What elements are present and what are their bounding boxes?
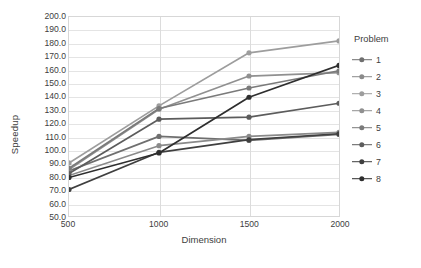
data-point-marker [336, 63, 339, 68]
legend-swatch-icon [352, 140, 372, 150]
series-svg [69, 17, 339, 216]
legend-swatch-icon [352, 106, 372, 116]
data-point-marker [156, 143, 161, 148]
data-point-marker [246, 115, 251, 120]
data-point-marker [156, 117, 161, 122]
legend-marker-icon [359, 159, 364, 164]
data-point-marker [246, 95, 251, 100]
y-axis-title: Speedup [6, 0, 24, 268]
y-tick-label: 140.0 [44, 91, 66, 101]
legend-item-6[interactable]: 6 [352, 136, 418, 153]
legend-marker-icon [359, 125, 364, 130]
line-chart: Speedup 50.060.070.080.090.0100.0110.012… [0, 0, 421, 268]
legend-item-1[interactable]: 1 [352, 51, 418, 68]
data-point-marker [246, 73, 251, 78]
x-tick-label: 1500 [240, 219, 259, 229]
plot-area [68, 16, 340, 217]
legend-title: Problem [354, 34, 418, 44]
x-axis-tick-labels: 500100015002000 [68, 219, 340, 233]
legend-label: 8 [376, 174, 381, 184]
legend-items: 12345678 [352, 51, 418, 187]
legend-marker-icon [359, 57, 364, 62]
legend-swatch-icon [352, 157, 372, 167]
legend: Problem 12345678 [352, 34, 418, 187]
legend-swatch-icon [352, 89, 372, 99]
legend-label: 1 [376, 55, 381, 65]
x-tick-label: 500 [61, 219, 75, 229]
legend-label: 5 [376, 123, 381, 133]
legend-swatch-icon [352, 174, 372, 184]
legend-marker-icon [359, 91, 364, 96]
legend-label: 3 [376, 89, 381, 99]
series-line-5 [69, 71, 339, 169]
legend-marker-icon [359, 142, 364, 147]
y-tick-label: 200.0 [44, 11, 66, 21]
data-point-marker [246, 137, 251, 142]
data-point-marker [246, 85, 251, 90]
legend-swatch-icon [352, 123, 372, 133]
series-line-1 [69, 134, 339, 170]
data-point-marker [336, 38, 339, 43]
legend-item-7[interactable]: 7 [352, 153, 418, 170]
y-tick-label: 70.0 [49, 185, 66, 195]
y-tick-label: 180.0 [44, 38, 66, 48]
x-tick-label: 1000 [149, 219, 168, 229]
y-tick-label: 90.0 [49, 158, 66, 168]
y-tick-label: 160.0 [44, 65, 66, 75]
legend-marker-icon [359, 176, 364, 181]
legend-item-2[interactable]: 2 [352, 68, 418, 85]
data-point-marker [156, 106, 161, 111]
legend-swatch-icon [352, 55, 372, 65]
x-axis-title: Dimension [68, 234, 340, 245]
legend-item-4[interactable]: 4 [352, 102, 418, 119]
data-point-marker [246, 50, 251, 55]
y-tick-label: 110.0 [45, 132, 66, 142]
legend-item-8[interactable]: 8 [352, 170, 418, 187]
x-axis-title-label: Dimension [182, 234, 227, 245]
legend-marker-icon [359, 74, 364, 79]
y-axis-tick-labels: 50.060.070.080.090.0100.0110.0120.0130.0… [26, 16, 66, 217]
legend-swatch-icon [352, 72, 372, 82]
legend-label: 6 [376, 140, 381, 150]
y-tick-label: 100.0 [44, 145, 66, 155]
legend-item-5[interactable]: 5 [352, 119, 418, 136]
data-point-marker [156, 150, 161, 155]
data-point-marker [336, 101, 339, 106]
y-tick-label: 130.0 [44, 105, 66, 115]
y-tick-label: 60.0 [49, 199, 66, 209]
legend-label: 2 [376, 72, 381, 82]
data-point-marker [156, 134, 161, 139]
legend-item-3[interactable]: 3 [352, 85, 418, 102]
y-tick-label: 80.0 [49, 172, 66, 182]
x-tick-label: 2000 [330, 219, 349, 229]
y-tick-label: 190.0 [44, 24, 66, 34]
series-line-8 [69, 65, 339, 177]
y-tick-label: 170.0 [44, 51, 66, 61]
legend-label: 7 [376, 157, 381, 167]
series-layer [69, 17, 339, 216]
y-tick-label: 120.0 [44, 118, 66, 128]
y-tick-label: 150.0 [44, 78, 66, 88]
legend-marker-icon [359, 108, 364, 113]
series-line-3 [69, 41, 339, 163]
legend-label: 4 [376, 106, 381, 116]
y-axis-title-label: Speedup [10, 114, 21, 153]
